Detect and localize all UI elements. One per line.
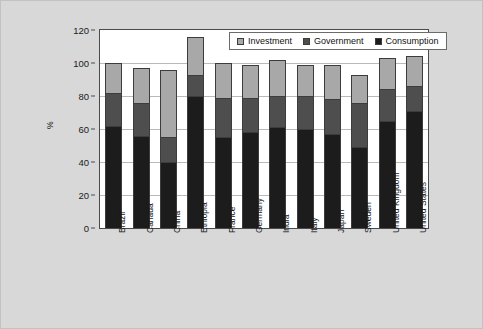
bar-segment-investment[interactable] bbox=[187, 37, 204, 75]
y-tick-label: 120 bbox=[73, 25, 89, 36]
bar-segment-investment[interactable] bbox=[297, 65, 314, 96]
bar-segment-government[interactable] bbox=[269, 96, 286, 127]
bars-layer bbox=[100, 30, 428, 228]
legend-label: Consumption bbox=[386, 36, 439, 46]
bar-segment-consumption[interactable] bbox=[269, 127, 286, 228]
bar-segment-government[interactable] bbox=[297, 96, 314, 129]
x-tick-label: Japan bbox=[336, 210, 346, 233]
bar-segment-government[interactable] bbox=[160, 137, 177, 162]
x-tick-label: France bbox=[227, 207, 237, 233]
bar-segment-investment[interactable] bbox=[160, 70, 177, 137]
y-axis-title: % bbox=[45, 121, 55, 129]
x-tick-label: Sweden bbox=[363, 202, 373, 233]
bar-group[interactable] bbox=[297, 65, 314, 228]
bar-segment-investment[interactable] bbox=[105, 63, 122, 93]
bar-group[interactable] bbox=[160, 70, 177, 228]
x-tick-label: Ethiopia bbox=[199, 202, 209, 233]
bar-segment-government[interactable] bbox=[242, 98, 259, 133]
bar-segment-investment[interactable] bbox=[406, 56, 423, 86]
legend-swatch-icon bbox=[303, 38, 310, 45]
y-tick-mark bbox=[91, 195, 95, 196]
legend-entry[interactable]: Consumption bbox=[375, 36, 439, 46]
x-tick-label: United States bbox=[418, 182, 428, 233]
y-tick-label: 60 bbox=[78, 124, 89, 135]
bar-segment-government[interactable] bbox=[379, 89, 396, 120]
y-tick-label: 100 bbox=[73, 58, 89, 69]
x-axis-labels: BrazilCanadaChinaEthiopiaFranceGermanyIn… bbox=[100, 233, 428, 323]
chart-legend: InvestmentGovernmentConsumption bbox=[229, 32, 447, 50]
bar-group[interactable] bbox=[324, 65, 341, 228]
bar-segment-government[interactable] bbox=[187, 75, 204, 96]
legend-entry[interactable]: Investment bbox=[237, 36, 292, 46]
y-tick-label: 40 bbox=[78, 157, 89, 168]
x-tick-label: China bbox=[172, 211, 182, 233]
y-tick-mark bbox=[91, 162, 95, 163]
bar-group[interactable] bbox=[269, 60, 286, 228]
bar-segment-investment[interactable] bbox=[269, 60, 286, 96]
bar-group[interactable] bbox=[215, 63, 232, 228]
y-axis: 020406080100120 bbox=[59, 29, 95, 229]
bar-segment-government[interactable] bbox=[105, 93, 122, 126]
bar-segment-investment[interactable] bbox=[133, 68, 150, 103]
y-tick-mark bbox=[91, 96, 95, 97]
y-tick-label: 0 bbox=[84, 223, 89, 234]
bar-segment-consumption[interactable] bbox=[297, 129, 314, 228]
y-tick-mark bbox=[91, 129, 95, 130]
x-tick-label: Canada bbox=[145, 203, 155, 233]
bar-segment-investment[interactable] bbox=[324, 65, 341, 100]
x-tick-label: Brazil bbox=[117, 212, 127, 233]
bar-segment-investment[interactable] bbox=[351, 75, 368, 103]
y-tick-label: 80 bbox=[78, 91, 89, 102]
y-tick-mark bbox=[91, 63, 95, 64]
bar-segment-government[interactable] bbox=[133, 103, 150, 136]
bar-segment-investment[interactable] bbox=[379, 58, 396, 89]
bar-segment-government[interactable] bbox=[351, 103, 368, 148]
y-tick-mark bbox=[91, 228, 95, 229]
bar-segment-government[interactable] bbox=[215, 98, 232, 138]
legend-swatch-icon bbox=[237, 38, 244, 45]
legend-label: Investment bbox=[248, 36, 292, 46]
bar-segment-investment[interactable] bbox=[215, 63, 232, 98]
bar-group[interactable] bbox=[187, 37, 204, 228]
x-tick-label: Italy bbox=[309, 217, 319, 233]
y-tick-label: 20 bbox=[78, 190, 89, 201]
x-tick-label: Germany bbox=[254, 198, 264, 233]
legend-swatch-icon bbox=[375, 38, 382, 45]
bar-group[interactable] bbox=[105, 63, 122, 228]
bar-segment-government[interactable] bbox=[406, 86, 423, 111]
bar-segment-investment[interactable] bbox=[242, 65, 259, 98]
chart-figure: 020406080100120 % BrazilCanadaChinaEthio… bbox=[0, 0, 483, 329]
y-tick-mark bbox=[91, 30, 95, 31]
x-tick-label: United Kingdom bbox=[391, 173, 401, 233]
legend-entry[interactable]: Government bbox=[303, 36, 364, 46]
legend-label: Government bbox=[314, 36, 364, 46]
x-tick-label: India bbox=[281, 215, 291, 233]
bar-segment-government[interactable] bbox=[324, 99, 341, 134]
